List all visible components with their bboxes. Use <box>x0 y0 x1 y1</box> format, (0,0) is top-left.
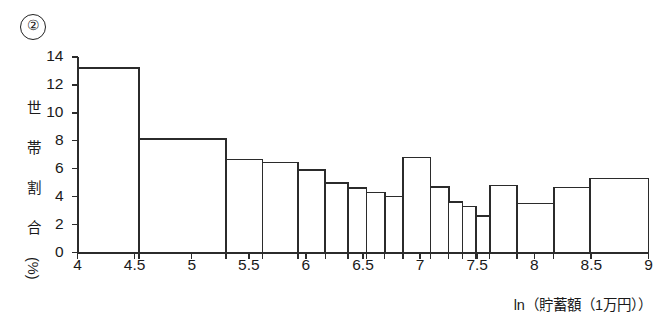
histogram-bar <box>490 185 517 252</box>
histogram-bar <box>385 197 403 253</box>
y-tick-label: 6 <box>30 159 64 177</box>
histogram-bar <box>430 187 448 253</box>
x-tick-label: 7.5 <box>454 256 500 274</box>
x-tick-label: 6.5 <box>340 256 386 274</box>
histogram-bar <box>366 192 384 252</box>
histogram-figure: ② 世 帯 割 合 (%) ln（貯蓄額（1万円）） 02468101214 4… <box>0 0 670 327</box>
histogram-bar <box>263 162 298 252</box>
y-tick-label: 10 <box>30 103 64 121</box>
histogram-bar <box>348 188 366 252</box>
y-tick-label: 12 <box>30 75 64 93</box>
x-tick-label: 5 <box>169 256 215 274</box>
histogram-bar <box>462 206 476 252</box>
bar-series <box>78 68 649 252</box>
histogram-bar <box>325 183 348 253</box>
x-tick-label: 4 <box>55 256 101 274</box>
x-tick-label: 5.5 <box>226 256 272 274</box>
histogram-bar <box>226 160 263 253</box>
y-tick-label: 4 <box>30 187 64 205</box>
histogram-bar <box>449 202 463 252</box>
x-tick-label: 6 <box>283 256 329 274</box>
histogram-bar <box>78 68 140 252</box>
histogram-bar <box>554 188 591 253</box>
histogram-bar <box>590 178 648 252</box>
y-tick-label: 8 <box>30 131 64 149</box>
x-tick-label: 8.5 <box>568 256 614 274</box>
histogram-bar <box>476 216 490 252</box>
x-tick-label: 9 <box>626 256 670 274</box>
x-tick-label: 4.5 <box>112 256 158 274</box>
y-tick-label: 14 <box>30 47 64 65</box>
histogram-bar <box>517 204 554 253</box>
plot-area <box>0 0 670 327</box>
x-tick-label: 8 <box>511 256 557 274</box>
y-tick-label: 2 <box>30 215 64 233</box>
histogram-bar <box>403 158 430 253</box>
x-tick-label: 7 <box>397 256 443 274</box>
histogram-bar <box>298 170 325 252</box>
histogram-bar <box>139 139 226 253</box>
